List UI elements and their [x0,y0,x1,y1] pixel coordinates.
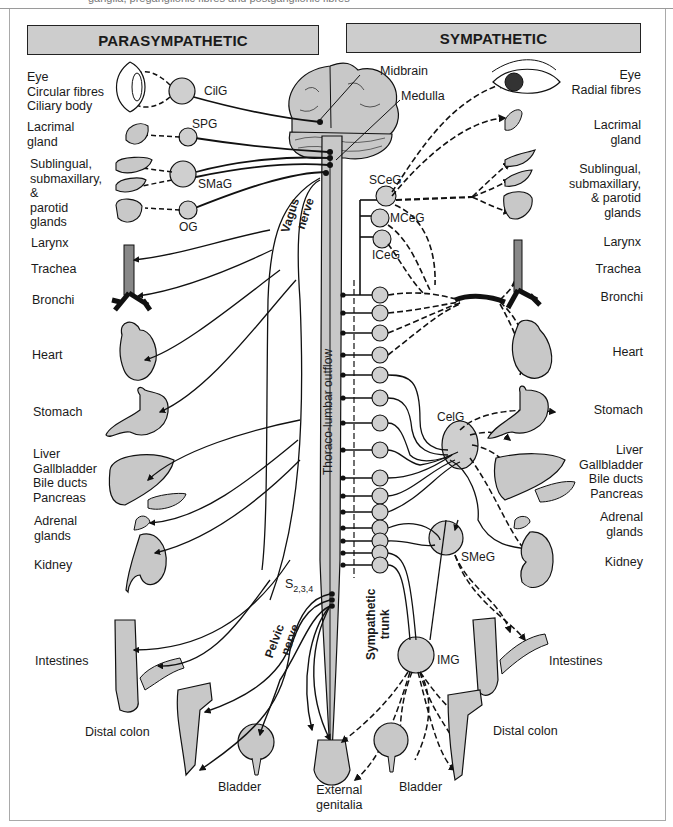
label-para-liver: Liver Gallbladder Bile ducts Pancreas [33,447,97,505]
label-symp-lacrimal: Lacrimal gland [594,118,641,147]
label-symp-liver: Liver Gallbladder Bile ducts Pancreas [579,443,643,501]
label-smag: SMaG [198,177,232,191]
intestines-icon-right [473,618,498,695]
kidney-icon-left [126,534,166,592]
label-para-intestines: Intestines [35,654,89,669]
label-celg: CelG [437,410,464,424]
bladder-icon-left [238,724,274,760]
label-symp-bronchi: Bronchi [601,290,643,305]
external-genitalia-icon [314,740,350,785]
label-para-larynx: Larynx [31,236,69,251]
intestines-icon-left [115,620,138,712]
label-para-distal-colon: Distal colon [85,725,150,740]
og-ganglion [179,201,197,219]
label-symp-salivary: Sublingual, submaxillary, & parotid glan… [569,162,641,220]
label-mceg: MCeG [390,211,425,225]
pancreas-icon-right [535,481,575,502]
label-para-lacrimal: Lacrimal gland [27,120,74,149]
heart-icon-left [120,322,156,380]
cardiopulmonary-plexus [455,296,505,302]
sublingual-gland-icon-right [505,150,535,166]
label-symp-kidney: Kidney [605,555,643,570]
label-spg: SPG [192,117,217,131]
small-intestine-icon-left [140,658,184,690]
label-symp-intestines: Intestines [549,654,603,669]
label-smeg: SMeG [461,550,495,564]
label-symp-eye: Eye Radial fibres [572,68,641,97]
distal-colon-icon-left [177,683,212,775]
smeg-ganglion [429,521,463,555]
label-sacral-segments: S2,3,4 [285,577,313,596]
pancreas-icon-left [148,493,186,509]
label-para-heart: Heart [32,348,63,363]
label-para-eye: Eye Circular fibres Ciliary body [27,70,104,114]
trachea-icon-right [508,240,540,308]
label-midbrain: Midbrain [380,64,428,79]
submaxillary-gland-icon-left [116,178,146,192]
label-symp-distal-colon: Distal colon [493,724,558,739]
label-external-genitalia: External genitalia [316,783,363,812]
label-iceg: ICeG [372,248,400,262]
label-para-salivary: Sublingual, submaxillary, & parotid glan… [30,157,102,230]
label-symp-adrenal: Adrenal glands [600,510,643,539]
lacrimal-gland-icon-right [505,110,522,131]
label-og: OG [179,220,198,234]
label-symp-trachea: Trachea [596,262,641,277]
sublingual-gland-icon-left [116,157,152,172]
label-symp-heart: Heart [612,345,643,360]
label-para-bladder: Bladder [218,780,261,795]
kidney-icon-right [521,532,553,587]
parotid-gland-icon-left [116,199,142,222]
label-para-kidney: Kidney [34,558,72,573]
trachea-icon-left [112,245,150,310]
eye-icon-left [117,62,146,112]
submaxillary-gland-icon-right [505,170,532,186]
cilg-ganglion [169,78,195,104]
label-symp-bladder: Bladder [399,780,442,795]
label-img: IMG [437,653,460,667]
smag-ganglion [170,161,196,187]
lacrimal-gland-icon-left [126,124,148,144]
label-para-stomach: Stomach [33,405,82,420]
label-para-bronchi: Bronchi [32,293,74,308]
distal-colon-icon-right [448,690,482,780]
adrenal-icon-left [134,516,150,530]
label-symp-larynx: Larynx [603,235,641,250]
parotid-gland-icon-right [504,192,533,219]
adrenal-icon-right [514,516,530,528]
label-para-trachea: Trachea [31,262,76,277]
label-symp-stomach: Stomach [594,403,643,418]
autonomic-nervous-system-diagram [0,0,673,827]
label-thoraco-lumbar-outflow: Thoraco-lumbar outflow [321,349,335,475]
label-medulla: Medulla [401,89,445,104]
label-cilg: CilG [204,84,227,98]
paravertebral-ganglia [371,186,396,573]
stomach-icon-left [106,388,168,437]
label-sympathetic-trunk: Sympathetic trunk [364,589,392,660]
eye-icon-right [492,60,560,94]
img-ganglion [398,637,434,673]
bladder-icon-right [374,723,408,757]
heart-icon-right [512,320,551,378]
label-para-adrenal: Adrenal glands [34,514,77,543]
label-sceg: SCeG [369,173,402,187]
small-intestine-icon-right [500,634,548,674]
